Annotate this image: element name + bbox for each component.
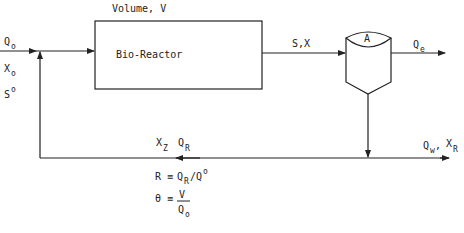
reactor-volume-label: Volume, V xyxy=(112,3,166,14)
recycle-ratio-equation: R ≡ Q R / Q o xyxy=(155,167,208,186)
waste-biomass-sub: R xyxy=(453,145,458,154)
inlet-substrate: S xyxy=(4,89,10,100)
eq2-op: ≡ xyxy=(167,193,173,204)
recycle-biomass: X xyxy=(156,137,162,148)
inlet-substrate-sup: o xyxy=(11,85,16,94)
inlet-flow: Q xyxy=(4,36,10,47)
eq1-den-sup: o xyxy=(203,167,208,176)
eq1-op: ≡ xyxy=(167,171,173,182)
inlet-flow-sub: o xyxy=(11,42,16,51)
eq1-num-sub: R xyxy=(184,177,189,186)
eq1-den: Q xyxy=(196,171,202,182)
eq1-num: Q xyxy=(177,171,183,182)
waste-biomass: X xyxy=(446,138,452,149)
reactor-outlet-label: S,X xyxy=(292,38,310,49)
inlet-biomass-sub: o xyxy=(11,69,16,78)
inlet-biomass: X xyxy=(4,63,10,74)
eq2-den-sub: o xyxy=(185,210,190,219)
eq2-lhs: θ xyxy=(155,193,161,204)
recycle-flow-sub: R xyxy=(185,144,190,153)
effluent-flow: Q xyxy=(413,39,419,50)
eq1-lhs: R xyxy=(155,171,162,182)
process-diagram: Q o X o S o Volume, V Bio-Reactor S,X A … xyxy=(0,0,464,233)
clarifier: A xyxy=(346,32,391,94)
residence-time-equation: θ ≡ V Q o xyxy=(155,189,190,219)
waste-flow: Q xyxy=(423,140,429,151)
effluent-flow-sub: e xyxy=(420,45,425,54)
eq2-den: Q xyxy=(178,204,184,215)
waste-separator: , xyxy=(435,140,441,151)
recycle-flow: Q xyxy=(178,137,184,148)
bio-reactor-label: Bio-Reactor xyxy=(116,49,182,60)
clarifier-area-label: A xyxy=(364,33,370,44)
eq2-num: V xyxy=(179,189,185,200)
inlet-labels: Q o X o S o xyxy=(4,36,16,100)
recycle-biomass-sub: Z xyxy=(163,144,168,153)
